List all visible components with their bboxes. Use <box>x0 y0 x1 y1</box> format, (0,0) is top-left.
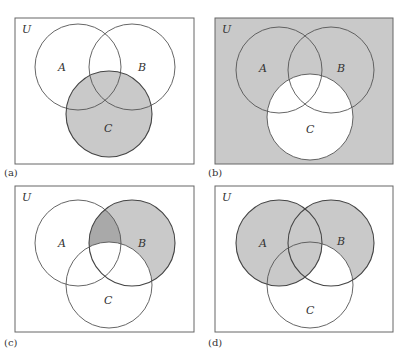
set-label-b: B <box>336 62 345 75</box>
set-label-a: A <box>258 237 267 250</box>
universe-label: U <box>222 191 232 204</box>
set-label-a: A <box>57 61 66 74</box>
set-label-a: A <box>258 62 267 75</box>
set-label-a: A <box>57 237 66 250</box>
universe-label: U <box>22 191 32 204</box>
panel-caption: (a) <box>4 167 18 178</box>
set-label-b: B <box>137 61 146 74</box>
panel-b: U A B C (b) <box>208 18 393 178</box>
panel-caption: (c) <box>4 337 18 348</box>
venn-diagram-figure: U A B C (a) U A B C (b) U A B C (c) <box>0 0 414 357</box>
set-label-c: C <box>306 123 315 136</box>
universe-label: U <box>22 23 32 36</box>
panel-c: U A B C (c) <box>4 186 194 348</box>
set-label-b: B <box>137 237 146 250</box>
universe-label: U <box>222 23 232 36</box>
set-label-c: C <box>104 294 113 307</box>
set-label-c: C <box>104 122 113 135</box>
panel-a: U A B C (a) <box>4 18 194 178</box>
panel-d: U A B C (d) <box>208 186 393 348</box>
panel-caption: (b) <box>208 167 222 178</box>
panel-caption: (d) <box>208 337 222 348</box>
set-label-c: C <box>306 304 315 317</box>
set-label-b: B <box>336 235 345 248</box>
